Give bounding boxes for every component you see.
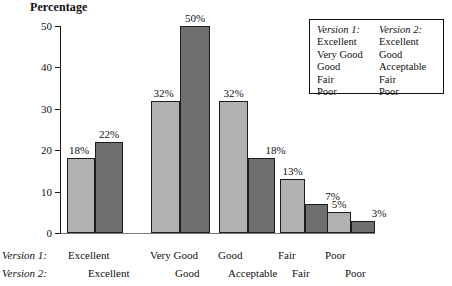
legend-item: Poor bbox=[317, 86, 379, 98]
bar-label-version1-fair: 13% bbox=[276, 166, 309, 177]
legend-item: Poor bbox=[379, 86, 441, 98]
y-tick-label: 10 bbox=[30, 187, 52, 198]
y-tick-label-wrap: 10 bbox=[0, 187, 52, 198]
category-label-version1-very-good: Very Good bbox=[150, 250, 198, 261]
legend-item: Fair bbox=[317, 74, 379, 86]
y-tick-label-wrap: 30 bbox=[0, 104, 52, 115]
axis-row-label-version1: Version 1: bbox=[2, 250, 47, 261]
category-label-version2-fair: Fair bbox=[292, 268, 310, 279]
legend-item: Very Good bbox=[317, 49, 379, 61]
bar-version2-good bbox=[248, 158, 275, 233]
legend-box: Version 1:ExcellentVery GoodGoodFairPoor… bbox=[309, 19, 444, 94]
y-tick-mark bbox=[55, 109, 61, 110]
bar-label-version2-acceptable: 18% bbox=[258, 145, 293, 156]
bar-version1-good bbox=[219, 101, 248, 233]
bar-label-version1-very-good: 32% bbox=[145, 88, 182, 99]
x-axis-line bbox=[60, 233, 375, 234]
y-tick-mark bbox=[55, 233, 61, 234]
bar-version1-very-good bbox=[151, 101, 180, 233]
bar-label-version1-excellent: 18% bbox=[61, 145, 97, 156]
y-tick-label: 50 bbox=[30, 21, 52, 32]
legend-column-2: Version 2:ExcellentGoodAcceptableFairPoo… bbox=[379, 24, 441, 98]
legend-column-1: Version 1:ExcellentVery GoodGoodFairPoor bbox=[317, 24, 379, 98]
category-label-version2-good: Good bbox=[175, 268, 199, 279]
y-tick-label: 20 bbox=[30, 145, 52, 156]
legend-item: Good bbox=[317, 61, 379, 73]
legend-item: Acceptable bbox=[379, 61, 441, 73]
y-tick-label: 30 bbox=[30, 104, 52, 115]
legend-item: Excellent bbox=[379, 36, 441, 48]
category-label-version1-fair: Fair bbox=[278, 250, 296, 261]
bar-label-version2-good: 50% bbox=[176, 13, 214, 24]
y-tick-mark bbox=[55, 67, 61, 68]
bar-version1-fair bbox=[280, 179, 305, 233]
bar-version1-excellent bbox=[67, 158, 95, 233]
category-label-version1-poor: Poor bbox=[325, 250, 346, 261]
legend-header-2: Version 2: bbox=[379, 24, 441, 36]
bar-version2-excellent bbox=[95, 142, 123, 233]
category-label-version2-poor: Poor bbox=[345, 268, 366, 279]
y-axis-line bbox=[60, 26, 61, 234]
bar-label-version2-excellent: 22% bbox=[91, 129, 127, 140]
bar-label-version2-poor: 3% bbox=[363, 208, 395, 219]
bar-label-version1-poor: 5% bbox=[323, 199, 355, 210]
y-tick-label-wrap: 20 bbox=[0, 145, 52, 156]
category-label-version2-acceptable: Acceptable bbox=[228, 268, 277, 279]
bar-label-version1-good: 32% bbox=[215, 88, 252, 99]
y-tick-mark bbox=[55, 26, 61, 27]
y-tick-label-wrap: 50 bbox=[0, 21, 52, 32]
y-tick-label: 40 bbox=[30, 62, 52, 73]
legend-item: Fair bbox=[379, 74, 441, 86]
category-label-version1-good: Good bbox=[218, 250, 242, 261]
axis-row-label-version2: Version 2: bbox=[2, 268, 47, 279]
category-label-version2-excellent: Excellent bbox=[88, 268, 130, 279]
bar-version2-poor bbox=[351, 221, 375, 233]
y-tick-label-wrap: 40 bbox=[0, 62, 52, 73]
bar-version2-very-good bbox=[180, 26, 210, 233]
legend-header-1: Version 1: bbox=[317, 24, 379, 36]
y-tick-label: 0 bbox=[30, 228, 52, 239]
y-tick-mark bbox=[55, 192, 61, 193]
chart-container: Percentage 01020304050 18%22%32%50%32%18… bbox=[0, 0, 452, 286]
legend-item: Good bbox=[379, 49, 441, 61]
y-tick-label-wrap: 0 bbox=[0, 228, 52, 239]
category-label-version1-excellent: Excellent bbox=[68, 250, 110, 261]
legend-item: Excellent bbox=[317, 36, 379, 48]
bar-version1-poor bbox=[327, 212, 351, 233]
